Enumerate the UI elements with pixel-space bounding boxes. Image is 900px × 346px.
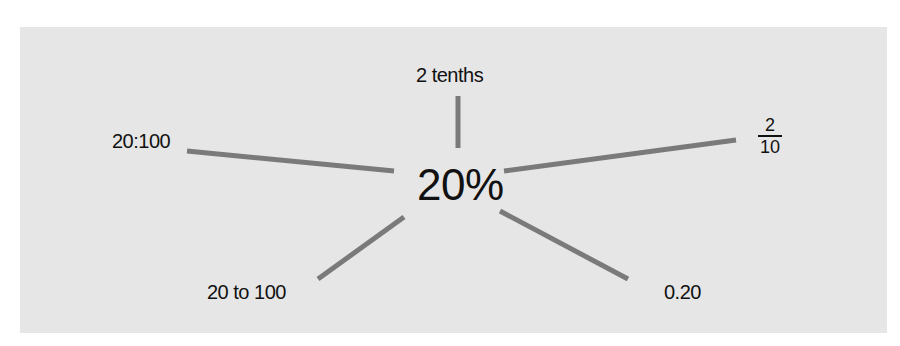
center-label: 20% bbox=[417, 160, 504, 210]
label-bottom-left: 20 to 100 bbox=[207, 281, 286, 304]
label-right-fraction: 2 10 bbox=[758, 116, 782, 156]
fraction-denominator: 10 bbox=[760, 138, 780, 156]
spoke-left bbox=[187, 151, 394, 171]
spoke-bottom-left bbox=[318, 217, 404, 279]
spoke-bottom-right bbox=[500, 211, 628, 279]
label-left: 20:100 bbox=[112, 130, 170, 153]
label-top: 2 tenths bbox=[416, 64, 483, 87]
label-bottom-right: 0.20 bbox=[664, 281, 701, 304]
spoke-right bbox=[504, 140, 736, 171]
fraction-numerator: 2 bbox=[765, 116, 775, 134]
